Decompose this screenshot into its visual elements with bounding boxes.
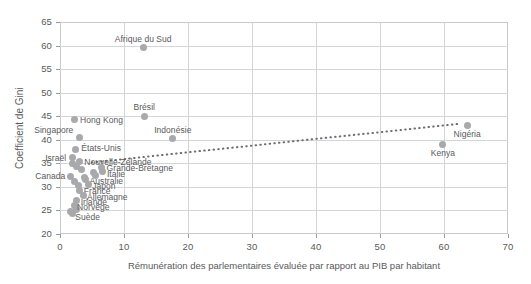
data-point-label: Nigéria bbox=[454, 129, 481, 139]
data-point bbox=[67, 173, 74, 180]
data-point-label: Afrique du Sud bbox=[115, 34, 172, 44]
data-point-label: Israël bbox=[45, 153, 66, 163]
x-axis-title: Rémunération des parlementaires évaluée … bbox=[60, 260, 508, 271]
data-point-label: Canada bbox=[35, 171, 65, 181]
trendline bbox=[0, 0, 531, 284]
data-point bbox=[464, 122, 471, 129]
data-point-label: Hong Kong bbox=[80, 115, 123, 125]
data-point-label: Indonésie bbox=[154, 125, 191, 135]
data-point-label: Kenya bbox=[431, 148, 455, 158]
data-point-label: Singapore bbox=[34, 125, 73, 135]
data-point-label: États-Unis bbox=[81, 143, 121, 153]
data-point-label: Norvège bbox=[77, 202, 109, 212]
data-point-label: Brésil bbox=[133, 102, 155, 112]
data-point-label: Suède bbox=[75, 212, 100, 222]
data-point bbox=[69, 154, 76, 161]
y-axis-title: Coefficient de Gini bbox=[14, 87, 25, 169]
data-point bbox=[141, 113, 148, 120]
data-point bbox=[72, 146, 79, 153]
scatter-chart: 20253035404550556065 010203040506070 Afr… bbox=[0, 0, 531, 284]
